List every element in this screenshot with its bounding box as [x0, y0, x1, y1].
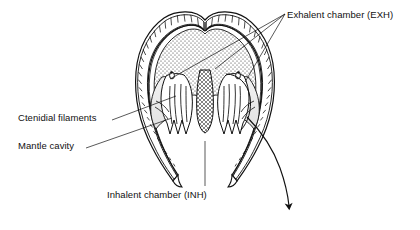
- gill-vessel-left: [170, 71, 173, 74]
- label-ctenidial-filaments: Ctenidial filaments: [18, 113, 97, 123]
- foot-crosshatch: [197, 70, 214, 133]
- gill-lamellae-left: [161, 74, 192, 134]
- label-exhalent-chamber: Exhalent chamber (EXH): [287, 10, 393, 20]
- label-inhalent-chamber: Inhalent chamber (INH): [107, 190, 207, 200]
- label-mantle-cavity: Mantle cavity: [18, 141, 74, 151]
- bivalve-cross-section-figure: Exhalent chamber (EXH) Ctenidial filamen…: [0, 0, 420, 230]
- foot: [197, 70, 214, 133]
- gill-vessel-right: [237, 71, 240, 74]
